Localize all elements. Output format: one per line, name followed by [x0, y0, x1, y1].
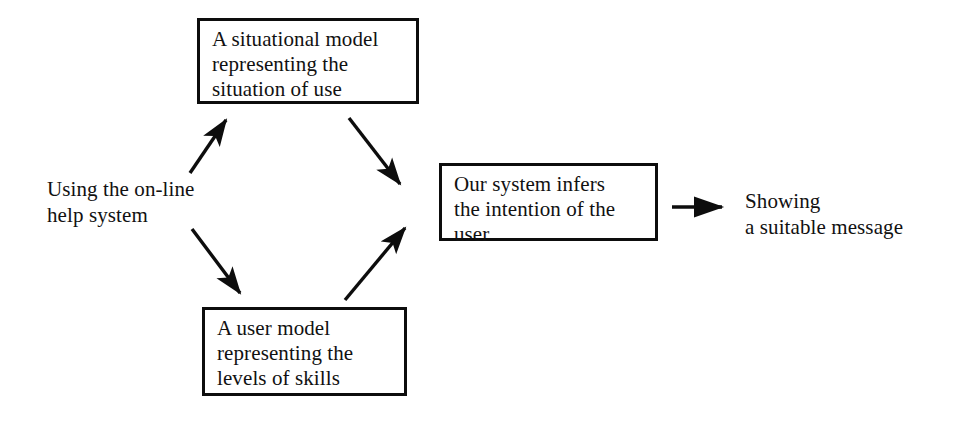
arrow-entry-to-situational-model — [190, 120, 226, 173]
node-inference-engine: Our system infers the intention of the u… — [439, 163, 658, 241]
node-user-model: A user model representing the levels of … — [202, 307, 407, 396]
label-entry-point: Using the on-line help system — [47, 176, 195, 228]
node-situational-model: A situational model representing the sit… — [197, 18, 419, 104]
arrow-situational-model-to-inference — [349, 118, 400, 184]
arrow-user-model-to-inference — [345, 228, 405, 300]
arrow-entry-to-user-model — [192, 229, 240, 293]
diagram-canvas: Using the on-line help system A situatio… — [0, 0, 980, 424]
label-outcome: Showing a suitable message — [745, 188, 903, 240]
